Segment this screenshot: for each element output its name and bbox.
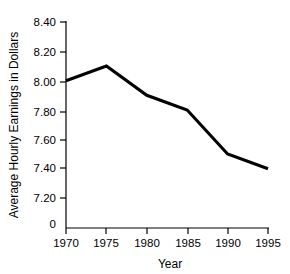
y-tick-label-8-40: 8.40	[34, 16, 56, 28]
y-tick-label-8-00: 8.00	[34, 76, 56, 88]
x-tick-label-1970: 1970	[53, 237, 79, 249]
line-chart: 8.40 8.20 8.00 7.80 7.60 7.40 7.20 0 197…	[0, 0, 290, 274]
y-tick-label-zero: 0	[50, 218, 56, 230]
x-tick-label-1975: 1975	[93, 237, 119, 249]
data-series-line	[66, 66, 268, 169]
y-tick-label-7-60: 7.60	[34, 134, 56, 146]
x-tick-label-1995: 1995	[255, 237, 281, 249]
chart-canvas: 8.40 8.20 8.00 7.80 7.60 7.40 7.20 0 197…	[0, 0, 290, 274]
x-axis-title: Year	[158, 257, 182, 271]
x-tick-label-1990: 1990	[215, 237, 241, 249]
y-axis-title: Average Hourly Earnings in Dollars	[7, 32, 21, 219]
y-tick-label-8-20: 8.20	[34, 46, 56, 58]
y-tick-label-7-40: 7.40	[34, 162, 56, 174]
x-tick-label-1980: 1980	[134, 237, 160, 249]
y-tick-label-7-20: 7.20	[34, 192, 56, 204]
y-tick-label-7-80: 7.80	[34, 106, 56, 118]
x-tick-label-1985: 1985	[175, 237, 201, 249]
